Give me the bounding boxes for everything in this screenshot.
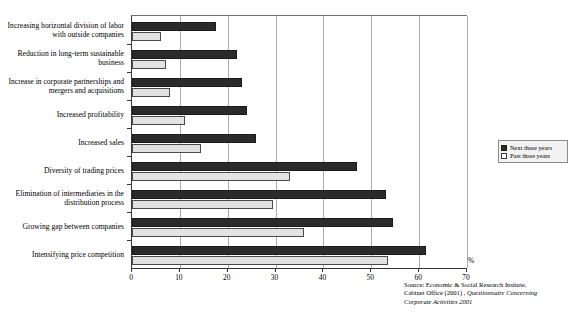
bar-past-three-years <box>132 32 161 41</box>
source-note: Source: Economic & Social Research Insit… <box>404 281 580 306</box>
bar-next-three-years <box>132 246 426 255</box>
legend-item-next-three-years[interactable]: Next three years <box>501 144 564 151</box>
bar-past-three-years <box>132 200 273 209</box>
category-label: Intensifying price competition <box>0 250 124 259</box>
bar-group <box>132 240 467 268</box>
y-axis-tick <box>127 100 131 101</box>
x-axis-tick <box>322 268 323 272</box>
x-axis-tick <box>179 268 180 272</box>
source-line-3: Corporate Activities 2001 <box>404 298 580 306</box>
bar-group <box>132 44 467 72</box>
source-line-1: Source: Economic & Social Research Insit… <box>404 281 580 289</box>
bar-past-three-years <box>132 60 166 69</box>
source-line-2-italic: Questionnaire Concerning <box>467 289 537 296</box>
y-axis-tick <box>127 156 131 157</box>
bar-past-three-years <box>132 144 201 153</box>
bar-past-three-years <box>132 256 388 265</box>
legend-label-past: Past three years <box>510 152 550 159</box>
bar-next-three-years <box>132 162 357 171</box>
y-axis-tick <box>127 184 131 185</box>
x-axis-line <box>131 268 467 269</box>
source-line-2: Cabinet Office (2001) , Questionnaire Co… <box>404 289 580 297</box>
y-axis-tick <box>127 240 131 241</box>
bar-group <box>132 16 467 44</box>
category-label: Increased sales <box>0 138 124 147</box>
bar-next-three-years <box>132 22 216 31</box>
category-label: Reduction in long-term sustainable busin… <box>0 49 124 67</box>
bar-next-three-years <box>132 106 247 115</box>
bar-past-three-years <box>132 88 170 97</box>
category-label: Increase in corporate partnerships and m… <box>0 77 124 95</box>
bar-group <box>132 128 467 156</box>
bar-group <box>132 72 467 100</box>
x-axis-tick-label: 50 <box>358 273 382 282</box>
bar-next-three-years <box>132 218 393 227</box>
category-label: Elimination of intermediaries in the dis… <box>0 189 124 207</box>
legend-label-next: Next three years <box>510 144 552 151</box>
chart-legend[interactable]: Next three years Past three years <box>498 140 568 163</box>
y-axis-tick <box>127 72 131 73</box>
x-axis-tick-label: 0 <box>119 273 143 282</box>
x-axis-tick <box>227 268 228 272</box>
bar-next-three-years <box>132 78 242 87</box>
legend-swatch-icon-past <box>501 153 507 159</box>
y-axis-tick <box>127 128 131 129</box>
legend-item-past-three-years[interactable]: Past three years <box>501 152 564 159</box>
gridline-70 <box>467 16 468 268</box>
bar-group <box>132 212 467 240</box>
category-axis-labels: Increasing horizontal division of labor … <box>2 16 128 268</box>
x-axis-tick <box>275 268 276 272</box>
plot-area <box>131 16 467 268</box>
category-label: Growing gap between companies <box>0 222 124 231</box>
bar-group <box>132 156 467 184</box>
category-label: Increased profitability <box>0 110 124 119</box>
bar-next-three-years <box>132 50 237 59</box>
legend-swatch-icon-next <box>501 145 507 151</box>
bar-past-three-years <box>132 116 185 125</box>
x-axis-tick <box>418 268 419 272</box>
x-axis-tick <box>466 268 467 272</box>
x-axis-tick-label: 10 <box>167 273 191 282</box>
bar-next-three-years <box>132 134 256 143</box>
source-line-2-plain: Cabinet Office (2001) , <box>404 289 467 296</box>
category-label: Increasing horizontal division of labor … <box>0 21 124 39</box>
x-axis-tick-label: 40 <box>310 273 334 282</box>
x-axis-tick-label: 20 <box>215 273 239 282</box>
bar-past-three-years <box>132 172 290 181</box>
bar-group <box>132 100 467 128</box>
y-axis-tick <box>127 44 131 45</box>
x-axis-tick <box>131 268 132 272</box>
x-axis-unit-label: % <box>468 256 474 265</box>
y-axis-tick <box>127 212 131 213</box>
bar-next-three-years <box>132 190 386 199</box>
bar-group <box>132 184 467 212</box>
bar-chart: Increasing horizontal division of labor … <box>0 0 581 315</box>
category-label: Diversity of trading prices <box>0 166 124 175</box>
x-axis-tick <box>370 268 371 272</box>
bar-past-three-years <box>132 228 304 237</box>
x-axis-tick-label: 30 <box>263 273 287 282</box>
